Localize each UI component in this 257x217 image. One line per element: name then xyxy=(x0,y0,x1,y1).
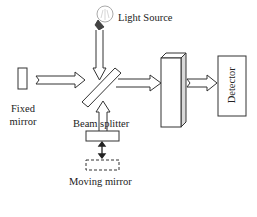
fixed-mirror-label-line1: Fixed xyxy=(6,104,40,115)
light-source-label: Light Source xyxy=(118,13,173,24)
moving-mirror-ghost xyxy=(86,160,119,170)
fixed-mirror-label-line2: mirror xyxy=(4,117,42,128)
moving-mirror-label: Moving mirror xyxy=(69,177,132,188)
sample-cell xyxy=(161,53,186,127)
output-beam-arrow xyxy=(116,75,161,91)
fixed-mirror xyxy=(18,68,27,89)
double-arrow-icon xyxy=(99,142,105,158)
light-bulb-icon xyxy=(95,6,113,30)
fixed-mirror-beam-arrow xyxy=(36,72,85,88)
beam-splitter-label: Beam splitter xyxy=(73,119,129,130)
source-beam-arrow xyxy=(93,30,106,80)
detector-beam-arrow xyxy=(187,75,217,91)
detector-label: Detector xyxy=(227,55,238,115)
moving-mirror xyxy=(86,131,119,141)
